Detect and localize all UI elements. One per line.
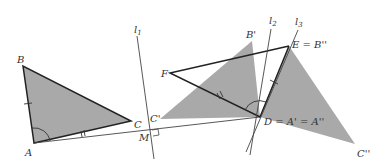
right-angle-mark: [152, 129, 159, 136]
triangle-a2b2c2: [260, 46, 355, 144]
label-l3: l3: [295, 16, 303, 29]
label-l1: l1: [134, 24, 142, 37]
label-c-prime: C': [150, 113, 160, 124]
triangle-abc: [23, 66, 131, 143]
reflection-diagram: B A C M C' B' F E = B'' D = A' = A'' C''…: [0, 0, 384, 165]
label-a: A: [24, 147, 32, 158]
triangle-a1b1c1: [160, 41, 260, 119]
label-l2: l2: [269, 15, 277, 28]
label-e: E = B'': [291, 39, 327, 50]
label-f: F: [160, 68, 169, 79]
label-m: M: [138, 132, 150, 143]
label-b-prime: B': [245, 29, 256, 40]
label-c: C: [134, 119, 142, 130]
label-c-double-prime: C'': [357, 148, 370, 159]
label-b: B: [16, 54, 24, 65]
label-d: D = A' = A'': [263, 116, 324, 127]
